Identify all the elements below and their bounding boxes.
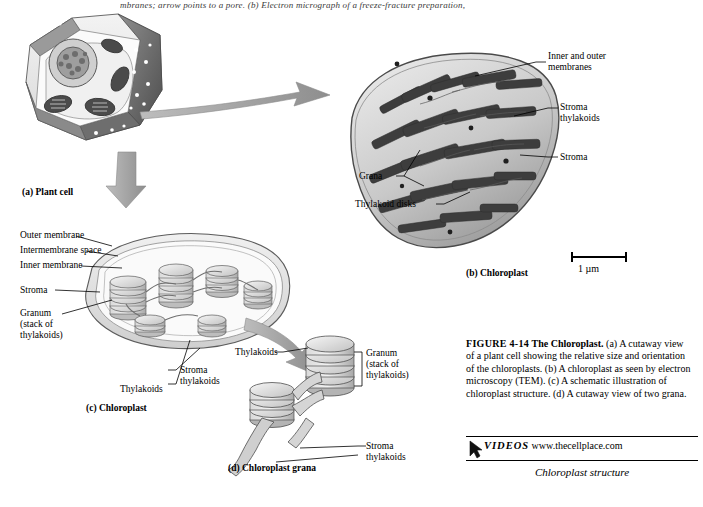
label-inner-outer-membranes: Inner and outer membranes — [548, 51, 648, 73]
label-granum-d: Granum (stack of thylakoids) — [366, 348, 428, 381]
label-stroma-thylakoids-b: Stroma thylakoids — [560, 102, 640, 124]
media-caption: Chloroplast structure — [466, 466, 698, 478]
figure-number: FIGURE 4-14 — [466, 338, 529, 349]
figure-caption: FIGURE 4-14 The Chloroplast. (a) A cutaw… — [466, 338, 694, 400]
caption-divider-bottom — [466, 460, 698, 461]
scale-bar — [571, 252, 627, 262]
label-grana-b: Grana — [359, 171, 382, 182]
label-intermembrane-space: Intermembrane space — [20, 245, 102, 256]
panel-d-leaders — [275, 348, 366, 462]
videos-link-row[interactable]: VIDEOS www.thecellplace.com — [466, 440, 696, 456]
panel-d-caption: (d) Chloroplast grana — [228, 463, 316, 474]
label-stroma-b: Stroma — [560, 152, 640, 163]
caption-divider-top — [466, 436, 698, 437]
figure-page: mbranes; arrow points to a pore. (b) Ele… — [0, 0, 703, 507]
panel-b-leaders — [396, 62, 558, 204]
panel-a-caption: (a) Plant cell — [22, 187, 73, 198]
schematic-chloroplast-illustration — [86, 234, 290, 349]
running-head: mbranes; arrow points to a pore. (b) Ele… — [120, 0, 640, 10]
label-thylakoids-d: Thylakoids — [235, 347, 278, 358]
tem-chloroplast-illustration — [351, 53, 559, 247]
videos-tag: VIDEOS — [484, 440, 529, 451]
label-stroma-thylakoids-c: Stroma thylakoids — [180, 365, 244, 387]
panel-b-caption: (b) Chloroplast — [466, 268, 528, 279]
label-thylakoids-c: Thylakoids — [120, 384, 163, 395]
plant-cell-illustration — [26, 14, 162, 140]
label-stroma-thylakoids-d: Stroma thylakoids — [366, 441, 430, 463]
label-inner-membrane: Inner membrane — [20, 260, 83, 271]
scale-bar-label: 1 µm — [578, 263, 599, 274]
arrow-a-to-c — [106, 152, 146, 208]
arrow-a-to-b — [140, 82, 330, 119]
label-outer-membrane: Outer membrane — [20, 230, 84, 241]
figure-title: The Chloroplast. — [532, 338, 604, 349]
label-thylakoid-disks-b: Thylakoid disks — [355, 199, 416, 210]
arrow-c-to-d — [244, 318, 314, 374]
panel-c-caption: (c) Chloroplast — [86, 403, 147, 414]
label-stroma-c: Stroma — [20, 285, 47, 296]
label-granum-c: Granum (stack of thylakoids) — [20, 308, 78, 341]
videos-url[interactable]: www.thecellplace.com — [532, 440, 623, 451]
